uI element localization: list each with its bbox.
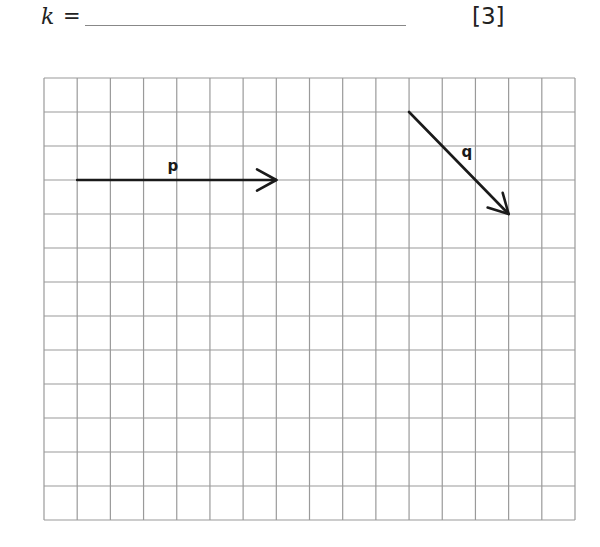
vector-label-q: q: [461, 143, 472, 161]
vector-q: q: [409, 112, 509, 214]
grid-svg: pq: [0, 0, 600, 547]
vector-grid: pq: [0, 0, 600, 547]
vector-label-p: p: [167, 157, 178, 175]
